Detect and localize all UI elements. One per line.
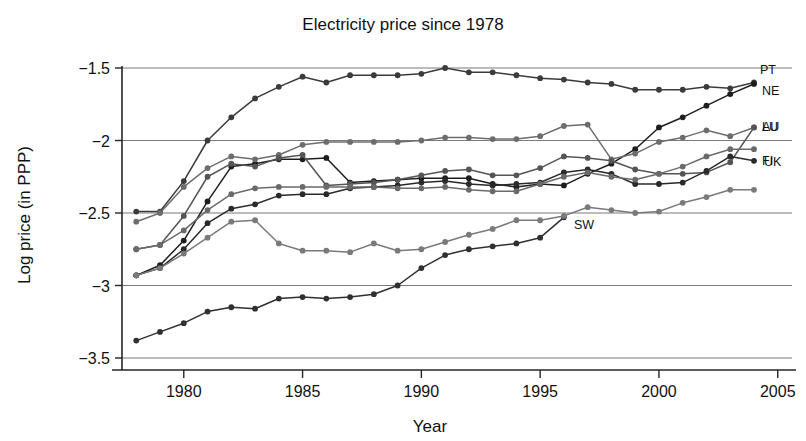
data-point xyxy=(632,210,638,216)
x-tick-label-0: 1980 xyxy=(166,383,202,400)
data-point xyxy=(561,77,567,83)
data-point xyxy=(205,165,211,171)
data-point xyxy=(418,172,424,178)
data-point xyxy=(157,242,163,248)
data-point xyxy=(656,125,662,131)
data-point xyxy=(751,125,757,131)
data-point xyxy=(537,133,543,139)
x-tick-label-5: 2005 xyxy=(760,383,796,400)
data-point xyxy=(347,294,353,300)
data-point xyxy=(561,154,567,160)
data-point xyxy=(300,142,306,148)
data-point xyxy=(490,183,496,189)
data-point xyxy=(632,87,638,93)
data-point xyxy=(680,87,686,93)
data-point xyxy=(680,200,686,206)
data-point xyxy=(466,232,472,238)
data-point xyxy=(490,226,496,232)
data-point xyxy=(205,138,211,144)
data-point xyxy=(205,309,211,315)
data-point xyxy=(228,219,234,225)
data-point xyxy=(680,164,686,170)
data-point xyxy=(205,207,211,213)
data-point xyxy=(490,172,496,178)
data-point xyxy=(585,204,591,210)
data-point xyxy=(371,184,377,190)
data-point xyxy=(466,181,472,187)
data-point xyxy=(466,167,472,173)
data-point xyxy=(395,248,401,254)
data-point xyxy=(205,199,211,205)
data-point xyxy=(371,139,377,145)
series-label-AU: AU xyxy=(762,120,779,134)
data-point xyxy=(514,188,520,194)
data-point xyxy=(323,139,329,145)
y-tick-label-3: −3 xyxy=(92,278,110,295)
data-point xyxy=(609,158,615,164)
data-point xyxy=(395,139,401,145)
data-point xyxy=(252,201,258,207)
data-point xyxy=(514,181,520,187)
y-tick-label-1: −2 xyxy=(92,133,110,150)
data-point xyxy=(300,74,306,80)
data-point xyxy=(371,291,377,297)
data-point xyxy=(727,159,733,165)
data-point xyxy=(133,209,139,215)
data-point xyxy=(585,170,591,176)
data-point xyxy=(418,138,424,144)
data-point xyxy=(347,184,353,190)
data-point xyxy=(585,155,591,161)
data-point xyxy=(276,184,282,190)
data-point xyxy=(252,96,258,102)
y-tick-label-2: −2.5 xyxy=(78,205,110,222)
data-point xyxy=(323,184,329,190)
data-point xyxy=(276,193,282,199)
data-point xyxy=(228,114,234,120)
data-point xyxy=(490,188,496,194)
data-point xyxy=(181,251,187,257)
data-point xyxy=(442,168,448,174)
y-axis-title: Log price (in PPP) xyxy=(15,146,34,284)
data-point xyxy=(300,184,306,190)
data-point xyxy=(609,81,615,87)
data-point xyxy=(514,217,520,223)
x-tick-label-2: 1990 xyxy=(404,383,440,400)
chart-figure: −1.5−2−2.5−3−3.5198019851990199520002005… xyxy=(0,0,806,441)
data-point xyxy=(323,191,329,197)
data-point xyxy=(466,69,472,75)
data-point xyxy=(609,207,615,213)
data-point xyxy=(252,306,258,312)
data-point xyxy=(751,81,757,87)
data-point xyxy=(181,184,187,190)
data-point xyxy=(371,72,377,78)
data-point xyxy=(514,72,520,78)
data-point xyxy=(442,239,448,245)
data-point xyxy=(751,158,757,164)
data-point xyxy=(656,181,662,187)
data-point xyxy=(418,185,424,191)
data-point xyxy=(181,228,187,234)
data-point xyxy=(680,180,686,186)
data-point xyxy=(323,80,329,86)
data-point xyxy=(276,155,282,161)
data-point xyxy=(133,219,139,225)
data-point xyxy=(395,177,401,183)
data-point xyxy=(418,180,424,186)
data-point xyxy=(561,213,567,219)
data-point xyxy=(466,187,472,193)
data-point xyxy=(514,241,520,247)
data-point xyxy=(727,85,733,91)
data-point xyxy=(680,135,686,141)
data-point xyxy=(228,161,234,167)
data-point xyxy=(704,84,710,90)
data-point xyxy=(727,154,733,160)
data-point xyxy=(514,172,520,178)
data-point xyxy=(704,194,710,200)
data-point xyxy=(704,103,710,109)
data-point xyxy=(680,171,686,177)
x-tick-label-4: 2000 xyxy=(641,383,677,400)
data-point xyxy=(276,84,282,90)
data-point xyxy=(276,296,282,302)
data-point xyxy=(181,238,187,244)
data-point xyxy=(442,184,448,190)
